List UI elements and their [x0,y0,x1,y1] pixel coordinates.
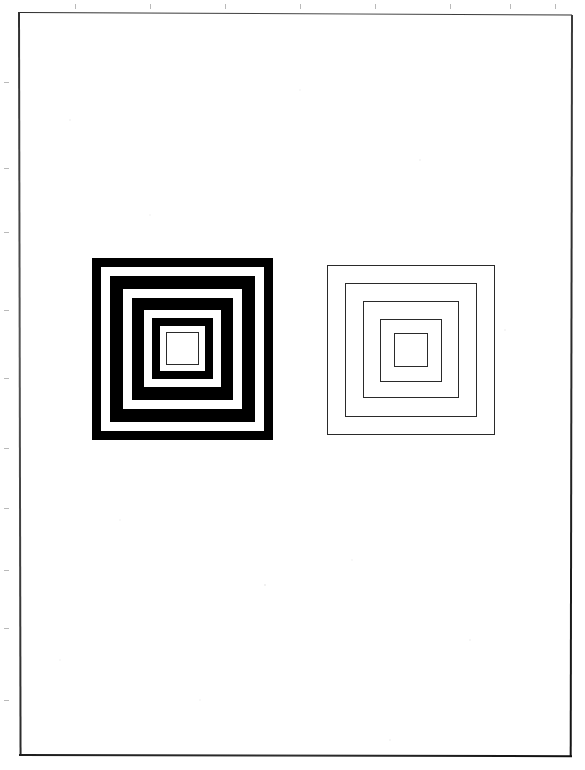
ruler-tick-top-2 [225,4,226,9]
ruler-tick-left-8 [4,628,9,629]
ruler-tick-left-7 [4,570,9,571]
ruler-tick-left-3 [4,310,9,311]
ruler-tick-left-9 [4,700,9,701]
nested-squares-figure-right [327,265,495,435]
ruler-tick-top-7 [555,4,556,9]
high-contrast-nested-squares-ring-8 [166,332,199,365]
ruler-tick-top-6 [510,4,511,9]
ruler-tick-top-0 [75,4,76,9]
ruler-tick-top-5 [450,4,451,9]
ruler-tick-left-0 [4,82,9,83]
ruler-tick-top-3 [300,4,301,9]
ruler-tick-top-4 [375,4,376,9]
low-contrast-nested-squares-ring-4 [394,333,428,367]
ruler-tick-left-1 [4,168,9,169]
ruler-tick-left-2 [4,232,9,233]
nested-squares-figure-left [92,258,273,440]
ruler-tick-left-4 [4,378,9,379]
ruler-tick-left-6 [4,508,9,509]
ruler-tick-left-5 [4,448,9,449]
ruler-tick-top-1 [150,4,151,9]
scanned-page-root [0,0,585,770]
